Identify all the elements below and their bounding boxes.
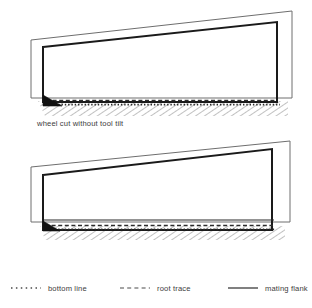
black-wedge	[43, 95, 62, 106]
material-hatching	[30, 224, 300, 244]
tool-outline-gray	[31, 141, 290, 222]
mating-flank-outline	[43, 149, 272, 230]
diagram-page: wheel cut without tool tilt	[0, 0, 312, 308]
legend-item-mating-flank: mating flank	[228, 281, 308, 295]
legend-label-mating-flank: mating flank	[265, 284, 308, 293]
legend-item-bottom-line: bottom line	[11, 281, 87, 295]
figure-1-drawing	[0, 0, 312, 138]
figure-wheel-cut-with-tool-tilt: wheel cut with tool tilt	[0, 138, 312, 273]
bottom-line-sample-icon	[11, 283, 41, 293]
mating-flank-outline	[43, 22, 277, 102]
figure-2-drawing	[0, 138, 312, 273]
legend-item-root-trace: root trace	[120, 281, 191, 295]
figure-1-caption: wheel cut without tool tilt	[37, 119, 123, 128]
root-trace-sample-icon	[120, 283, 150, 293]
legend-label-root-trace: root trace	[157, 284, 191, 293]
figure-wheel-cut-without-tool-tilt: wheel cut without tool tilt	[0, 0, 312, 138]
legend-label-bottom-line: bottom line	[48, 284, 87, 293]
mating-flank-sample-icon	[228, 283, 258, 293]
legend: bottom line root trace mating flank	[0, 281, 312, 301]
